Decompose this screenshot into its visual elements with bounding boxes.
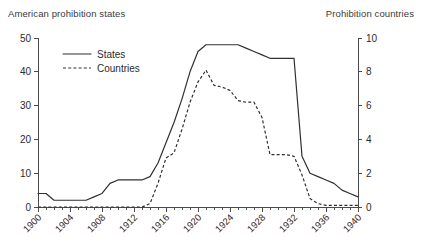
legend-label-countries: Countries	[97, 63, 140, 74]
y-right-tick-label: 6	[366, 100, 372, 111]
y-right-tick-label: 8	[366, 66, 372, 77]
y-right-tick-label: 4	[366, 134, 372, 145]
x-tick-label: 1936	[309, 212, 332, 235]
x-tick-label: 1904	[53, 212, 76, 235]
y-left-tick-label: 20	[20, 134, 32, 145]
y-right-tick-label: 2	[366, 168, 372, 179]
y-axis-left: 01020304050	[20, 33, 38, 213]
legend-label-states: States	[97, 49, 125, 60]
x-tick-label: 1916	[149, 212, 172, 235]
series-line-countries	[38, 70, 358, 207]
chart-legend: StatesCountries	[63, 49, 140, 74]
chart-canvas: 01020304050 0246810 19001904190819121916…	[0, 0, 422, 252]
x-tick-label: 1940	[341, 212, 364, 235]
y-left-tick-label: 40	[20, 66, 32, 77]
prohibition-line-chart: American prohibition states Prohibition …	[0, 0, 422, 252]
y-axis-right: 0246810	[358, 33, 378, 213]
y-left-tick-label: 50	[20, 33, 32, 44]
x-tick-label: 1908	[85, 212, 108, 235]
y-right-tick-label: 10	[366, 33, 378, 44]
y-left-tick-label: 30	[20, 100, 32, 111]
x-tick-label: 1900	[21, 212, 44, 235]
x-tick-label: 1924	[213, 212, 236, 235]
x-tick-label: 1912	[117, 212, 140, 235]
x-tick-label: 1928	[245, 212, 268, 235]
x-tick-label: 1920	[181, 212, 204, 235]
y-right-tick-label: 0	[366, 202, 372, 213]
x-tick-label: 1932	[277, 212, 300, 235]
data-series-group	[38, 45, 358, 207]
y-left-tick-label: 10	[20, 168, 32, 179]
x-axis: 1900190419081912191619201924192819321936…	[21, 207, 364, 234]
y-left-tick-label: 0	[25, 202, 31, 213]
